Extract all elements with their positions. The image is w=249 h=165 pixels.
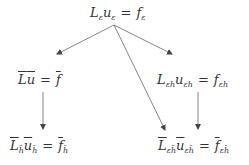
operator-L: L [158,138,167,153]
rhs-f: f [56,72,61,87]
equals-sign: = [199,138,210,153]
node-root: Lεuε=fε [90,5,146,21]
subscript: εh [166,80,175,89]
operator-L: L [10,138,19,153]
subscript: εh [183,80,192,89]
subscript: h̄ [63,146,68,155]
subscript: εh̄ [167,146,176,155]
equals-sign: = [198,72,209,87]
subscript: h̄ [32,146,37,155]
variable-u: u [27,72,35,87]
subscript: εh̄ [184,146,193,155]
equals-sign: = [121,5,132,20]
subscript: ε [111,13,115,22]
operator-L: L [90,5,99,20]
subscript: εh̄ [220,146,229,155]
operator-L: L [18,72,27,87]
equals-sign: = [42,138,53,153]
node-left-mid: Lu=f [18,72,61,88]
variable-u: u [24,138,32,153]
edge-root-to-right-mid [114,25,172,54]
edge-root-to-left-mid [57,25,114,54]
subscript: ε [141,13,145,22]
node-left-bottom: Lh̄uh̄=fh̄ [10,138,68,154]
equals-sign: = [40,72,51,87]
operator-L: L [157,72,166,87]
subscript: εh [219,80,228,89]
node-right-bottom: Lεh̄uεh̄=fεh̄ [158,138,229,154]
node-right-mid: Lεhuεh=fεh [157,72,228,88]
